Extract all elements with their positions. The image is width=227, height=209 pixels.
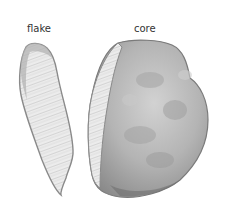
stone-tool-illustration bbox=[0, 0, 227, 209]
core-drawing bbox=[88, 40, 208, 197]
flake-drawing bbox=[20, 43, 73, 195]
